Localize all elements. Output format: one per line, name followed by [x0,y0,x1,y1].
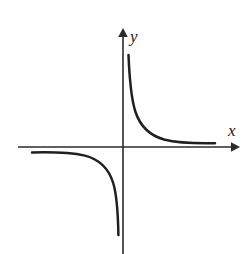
x-axis-arrowhead [231,142,240,152]
x-axis-label: x [228,122,236,139]
graph-figure: y x [0,0,252,254]
y-axis-arrowhead [118,28,128,37]
hyperbola-branch-quadrant-1 [129,55,216,143]
graph-canvas [0,0,252,254]
y-axis-label: y [130,28,138,45]
hyperbola-branch-quadrant-3 [32,152,118,235]
